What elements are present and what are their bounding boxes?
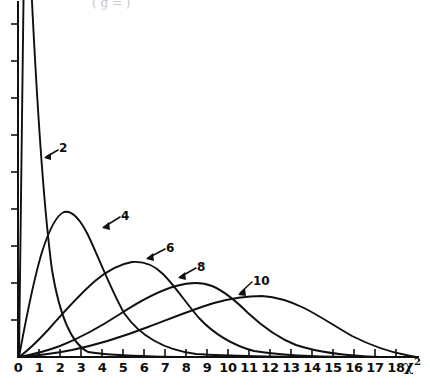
- curve-label-df-6: 6: [166, 241, 174, 255]
- x-tick-label-12: 12: [260, 360, 280, 375]
- x-tick-label-11: 11: [239, 360, 259, 375]
- density-curves: [19, 0, 416, 357]
- leader-arrow-2: [44, 153, 51, 160]
- x-tick-label-16: 16: [344, 360, 364, 375]
- x-tick-label-8: 8: [176, 360, 196, 375]
- chart-plot-area: [0, 0, 430, 385]
- leader-arrow-6: [146, 253, 154, 261]
- leader-arrow-10: [238, 288, 246, 296]
- x-tick-label-9: 9: [197, 360, 217, 375]
- x-tick-label-6: 6: [134, 360, 154, 375]
- x-tick-label-14: 14: [302, 360, 322, 375]
- x-axis-title-symbol: χ: [404, 357, 414, 375]
- x-axis-title: χ2: [404, 356, 421, 375]
- chi-squared-distribution-figure: ( g = ): [0, 0, 430, 385]
- x-tick-label-5: 5: [113, 360, 133, 375]
- y-axis-ticks: [11, 24, 18, 320]
- curve-label-df-2: 2: [59, 141, 67, 155]
- curve-label-df-10: 10: [253, 274, 270, 288]
- x-tick-label-17: 17: [365, 360, 385, 375]
- leader-arrow-4: [102, 222, 110, 230]
- curve-df-2-descending: [30, 0, 416, 357]
- y-axis-group: [11, 2, 18, 357]
- x-tick-label-18: 18: [386, 360, 406, 375]
- x-tick-label-3: 3: [71, 360, 91, 375]
- x-tick-label-1: 1: [29, 360, 49, 375]
- x-tick-label-2: 2: [50, 360, 70, 375]
- leader-arrow-8: [178, 272, 186, 280]
- x-tick-label-0: 0: [8, 360, 28, 375]
- curve-label-df-4: 4: [121, 209, 129, 223]
- x-tick-label-4: 4: [92, 360, 112, 375]
- x-tick-label-7: 7: [155, 360, 175, 375]
- curve-df-6: [19, 262, 416, 357]
- x-axis-title-exponent: 2: [414, 356, 421, 367]
- x-tick-label-15: 15: [323, 360, 343, 375]
- x-tick-label-10: 10: [218, 360, 238, 375]
- curve-df-10: [19, 296, 416, 357]
- curve-label-df-8: 8: [197, 260, 205, 274]
- curve-df-2: [19, 0, 24, 357]
- curve-label-leaders: [44, 150, 252, 296]
- x-tick-label-13: 13: [281, 360, 301, 375]
